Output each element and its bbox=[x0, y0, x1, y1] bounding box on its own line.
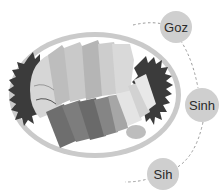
label-text: Sinh bbox=[189, 98, 215, 113]
label-circle-sinh: Sinh bbox=[185, 88, 219, 122]
label-circle-goz: Goz bbox=[160, 11, 192, 43]
label-text: Goz bbox=[164, 20, 188, 35]
diagram-canvas: Goz Sinh Sih bbox=[0, 0, 221, 190]
label-text: Sih bbox=[154, 167, 173, 182]
label-circle-sih: Sih bbox=[147, 158, 179, 190]
